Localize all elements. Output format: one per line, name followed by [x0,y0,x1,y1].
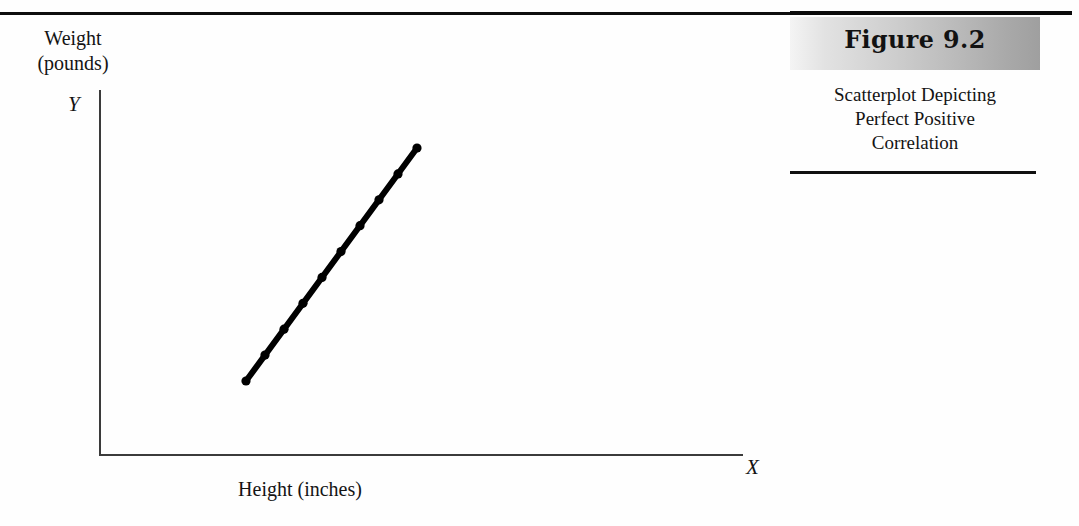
data-point [393,169,402,178]
scatter-plot-canvas [0,18,780,526]
figure-caption-line-3: Correlation [790,131,1040,155]
data-point [336,247,345,256]
figure-number-label: Figure 9.2 [796,25,1034,54]
scatterplot-figure: Weight (pounds) Y X Height (inches) [0,18,780,526]
data-point [298,299,307,308]
top-horizontal-rule-accent [790,11,1072,15]
figure-caption-text: Scatterplot Depicting Perfect Positive C… [790,83,1040,155]
data-point [412,143,421,152]
figure-number-band: Figure 9.2 [790,17,1040,70]
caption-bottom-rule [790,171,1036,174]
data-point [355,221,364,230]
data-point [317,273,326,282]
data-point [260,351,269,360]
data-point [241,376,250,385]
figure-caption-panel: Figure 9.2 Scatterplot Depicting Perfect… [790,17,1040,155]
data-point [279,325,288,334]
figure-caption-line-2: Perfect Positive [790,107,1040,131]
data-series-group [241,143,421,385]
figure-caption-line-1: Scatterplot Depicting [790,83,1040,107]
regression-line [246,148,417,381]
data-point [374,195,383,204]
figure-page: Weight (pounds) Y X Height (inches) Figu… [0,0,1079,526]
